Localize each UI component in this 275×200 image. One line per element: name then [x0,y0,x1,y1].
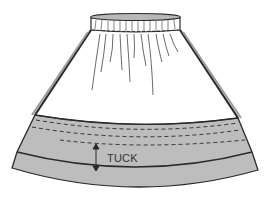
waistband [91,14,181,33]
skirt-body [35,30,238,124]
tuck-label: TUCK [107,152,138,164]
skirt-diagram: TUCK [0,0,275,200]
hem-band [12,115,258,187]
